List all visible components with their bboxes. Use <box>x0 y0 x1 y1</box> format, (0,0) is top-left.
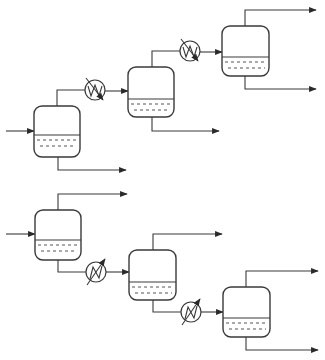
heat-exchanger-heater-icon[interactable] <box>86 259 106 285</box>
bottom-train <box>6 194 318 350</box>
vessel-v3[interactable] <box>222 26 269 76</box>
heat-exchanger-cooler-icon[interactable] <box>180 39 200 61</box>
liquid-line-v4-e3 <box>58 260 86 272</box>
vessel-v6[interactable] <box>223 287 270 337</box>
liquid-outlet-v6 <box>246 337 318 350</box>
vapor-outlet-v3 <box>245 10 316 26</box>
process-flow-diagram <box>0 0 325 360</box>
vessel-v5[interactable] <box>129 250 176 300</box>
heat-exchanger-cooler-icon[interactable] <box>85 78 105 100</box>
heat-exchanger-heater-icon[interactable] <box>181 299 201 325</box>
vessel-v2[interactable] <box>128 67 174 117</box>
vapor-outlet-v4 <box>58 194 127 210</box>
vapor-line-v2-e2 <box>152 51 180 67</box>
vessel-v1[interactable] <box>34 106 80 157</box>
liquid-line-v5-e4 <box>153 300 181 312</box>
vapor-outlet-v5 <box>153 234 222 250</box>
top-train <box>6 10 316 170</box>
vapor-line-v1-e1 <box>57 90 85 106</box>
vessel-v4[interactable] <box>35 210 81 260</box>
liquid-outlet-v3 <box>245 76 316 89</box>
liquid-outlet-v1 <box>58 157 126 170</box>
liquid-outlet-v2 <box>152 117 219 131</box>
vapor-outlet-v6 <box>246 271 318 287</box>
